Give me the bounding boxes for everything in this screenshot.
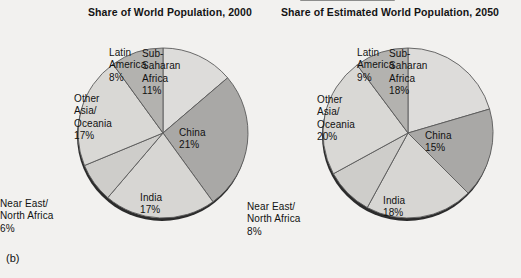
chart-title-right: Share of Estimated World Population, 205… — [281, 6, 499, 18]
slice-label-china-2050: China 15% — [425, 130, 475, 155]
pie-chart-2050: Sub- Saharan Africa 18% China 15% India … — [313, 38, 503, 228]
slice-label-other-asia-oceania-2000: Other Asia/ Oceania 17% — [74, 93, 130, 143]
slice-label-india-2050: India 18% — [383, 195, 429, 220]
slice-label-near-east-north-africa-2000: Near East/ North Africa 6% — [0, 198, 76, 235]
slice-label-latin-america-2050: Latin America 9% — [357, 47, 409, 84]
slice-label-india-2000: India 17% — [140, 192, 186, 217]
cropped-title-fragment — [300, 0, 395, 1]
chart-title-left: Share of World Population, 2000 — [88, 6, 252, 18]
figure-panel-b: Share of World Population, 2000 Share of… — [0, 0, 521, 278]
panel-label: (b) — [6, 252, 19, 264]
slice-label-near-east-north-africa-2050: Near East/ North Africa 8% — [247, 201, 323, 238]
slice-label-china-2000: China 21% — [179, 127, 229, 152]
slice-label-latin-america-2000: Latin America 8% — [109, 47, 161, 84]
pie-chart-2000: Sub- Saharan Africa 11% China 21% India … — [68, 38, 258, 228]
slice-label-other-asia-oceania-2050: Other Asia/ Oceania 20% — [317, 94, 373, 144]
